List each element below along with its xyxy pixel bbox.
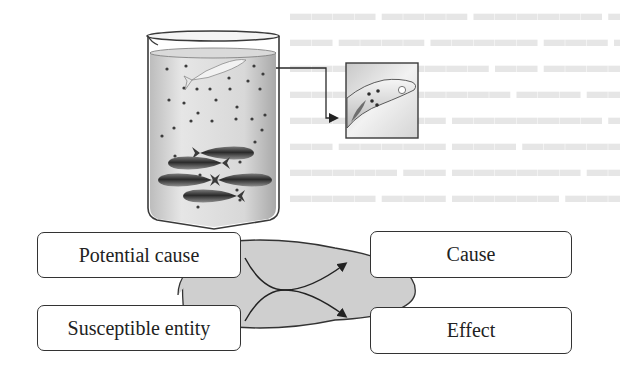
- effect-label: Effect: [447, 319, 496, 342]
- cause-label: Cause: [447, 243, 496, 266]
- effect-box: Effect: [370, 307, 572, 354]
- cause-box: Cause: [370, 231, 572, 278]
- potential-cause-label: Potential cause: [79, 244, 200, 267]
- magnify-arrow: [276, 68, 336, 118]
- potential-cause-box: Potential cause: [37, 232, 241, 278]
- inset-fish-icon: [346, 63, 418, 138]
- susceptible-entity-label: Susceptible entity: [68, 317, 211, 340]
- susceptible-entity-box: Susceptible entity: [37, 305, 241, 351]
- beaker-icon: [147, 31, 279, 229]
